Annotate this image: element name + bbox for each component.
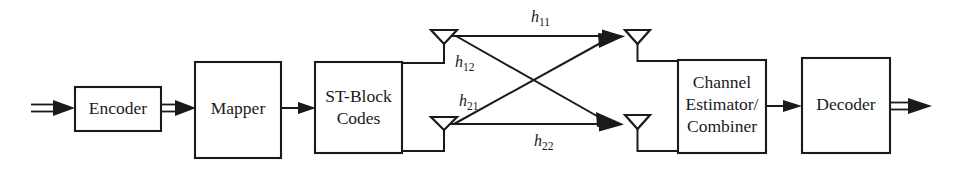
encoder-label: Encoder <box>89 98 147 118</box>
antenna-rx2[interactable] <box>625 115 650 129</box>
channel-estimator-label-line3: Combiner <box>687 116 757 136</box>
channel-path-h21 <box>454 33 625 124</box>
wire-stblock-to-tx2 <box>402 130 444 151</box>
diagram-canvas: Encoder Mapper ST-Block Codes <box>0 0 963 181</box>
antenna-rx2-dish <box>625 115 650 129</box>
channel-label-h21-base: h <box>459 92 467 109</box>
encoder-to-mapper-arrow <box>161 100 196 116</box>
wire-rx1-to-chanest <box>638 44 680 61</box>
channel-estimator-label-line2: Estimator/ <box>686 94 759 114</box>
block-channel-estimator-combiner[interactable]: Channel Estimator/ Combiner <box>678 60 766 153</box>
block-mapper[interactable]: Mapper <box>195 62 281 158</box>
channel-label-h22-sub: 22 <box>542 140 554 152</box>
channel-label-h11-base: h <box>531 8 539 25</box>
output-double-arrow <box>890 98 932 114</box>
channel-label-h12-sub: 12 <box>463 61 475 73</box>
channel-label-h12-base: h <box>455 53 463 70</box>
channel-label-h12: h12 <box>455 53 475 73</box>
mapper-to-stblock-arrow <box>281 102 316 114</box>
channel-label-h11-sub: 11 <box>539 16 550 28</box>
channel-label-h21: h21 <box>459 92 479 112</box>
channel-estimator-label-line1: Channel <box>693 72 751 92</box>
st-block-codes-label-line1: ST-Block <box>325 86 392 106</box>
channel-label-h11: h11 <box>531 8 550 28</box>
mapper-label: Mapper <box>211 98 266 118</box>
channel-label-h22-base: h <box>534 132 542 149</box>
wire-rx2-to-chanest <box>638 129 680 151</box>
block-st-block-codes[interactable]: ST-Block Codes <box>315 62 402 153</box>
wire-stblock-to-tx1 <box>402 44 444 63</box>
antenna-rx1[interactable] <box>625 30 650 44</box>
channel-path-h12 <box>456 36 623 127</box>
mimo-block-diagram: Encoder Mapper ST-Block Codes <box>0 0 963 181</box>
antenna-rx1-dish <box>625 30 650 44</box>
channel-label-h21-sub: 21 <box>467 100 479 112</box>
decoder-label: Decoder <box>816 94 875 114</box>
input-double-arrow <box>31 100 75 116</box>
st-block-codes-label-line2: Codes <box>337 108 381 128</box>
block-encoder[interactable]: Encoder <box>75 87 161 131</box>
chanest-to-decoder-arrow <box>766 100 802 112</box>
channel-label-h22: h22 <box>534 132 554 152</box>
block-decoder[interactable]: Decoder <box>802 58 890 153</box>
